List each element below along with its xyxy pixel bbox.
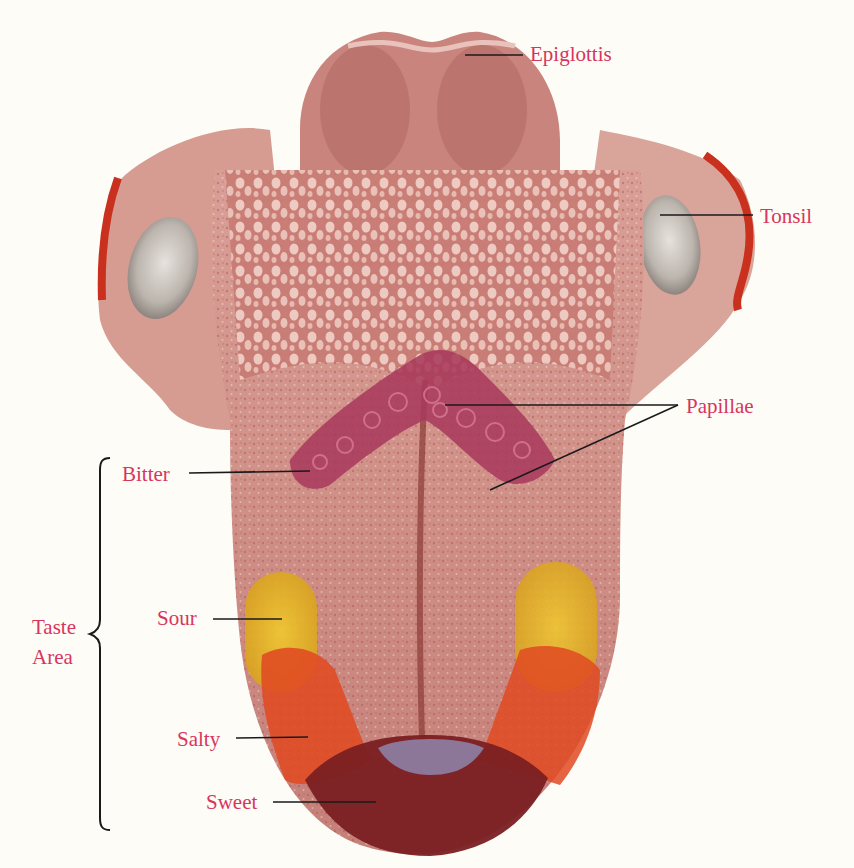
label-papillae: Papillae xyxy=(686,396,754,417)
label-taste-area-line1: Taste xyxy=(32,617,76,638)
label-taste-area-line2: Area xyxy=(32,647,73,668)
tongue-diagram: Epiglottis Tonsil Papillae Bitter Sour S… xyxy=(0,0,854,868)
label-sweet: Sweet xyxy=(206,792,257,813)
label-tonsil: Tonsil xyxy=(760,206,812,227)
label-bitter: Bitter xyxy=(122,464,170,485)
label-sour: Sour xyxy=(157,608,197,629)
taste-area-brace xyxy=(90,458,110,830)
label-salty: Salty xyxy=(177,729,220,750)
tongue-illustration xyxy=(0,0,854,868)
label-epiglottis: Epiglottis xyxy=(530,44,612,65)
